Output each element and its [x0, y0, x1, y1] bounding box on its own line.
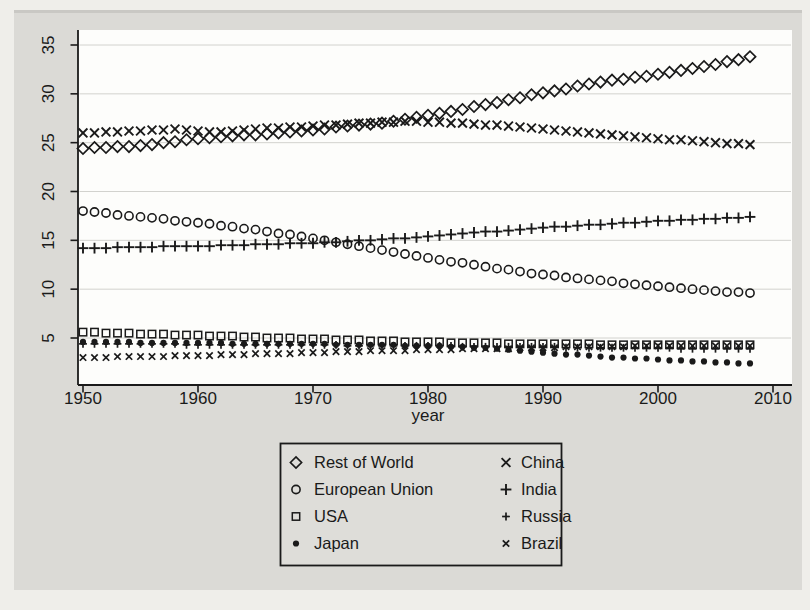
legend: Rest of WorldEuropean UnionUSAJapanChina… — [281, 444, 573, 566]
scanned-chart-figure: 5101520253035195019601970198019902000201… — [0, 0, 810, 610]
y-tick-label: 5 — [39, 333, 58, 342]
y-tick-label: 10 — [39, 280, 58, 299]
scan-edge-shade — [14, 10, 802, 13]
legend-label: European Union — [314, 480, 433, 498]
legend-label: Brazil — [521, 534, 562, 552]
legend-label: Japan — [314, 534, 359, 552]
x-axis-title: year — [411, 406, 444, 425]
y-tick-label: 35 — [39, 36, 58, 55]
y-tick-label: 20 — [39, 182, 58, 201]
x-tick-label: 2010 — [754, 389, 792, 408]
legend-label: Russia — [521, 507, 572, 525]
y-tick-label: 25 — [39, 133, 58, 152]
legend-label: India — [521, 480, 558, 498]
x-tick-label: 2000 — [639, 389, 677, 408]
x-tick-label: 1950 — [64, 389, 102, 408]
legend-label: USA — [314, 507, 348, 525]
y-tick-label: 30 — [39, 84, 58, 103]
legend-label: China — [521, 453, 565, 471]
x-tick-label: 1970 — [294, 389, 332, 408]
x-tick-label: 1960 — [179, 389, 217, 408]
legend-item-european-union: European Union — [292, 480, 433, 498]
x-tick-label: 1990 — [524, 389, 562, 408]
y-tick-label: 15 — [39, 231, 58, 250]
legend-label: Rest of World — [314, 453, 414, 471]
